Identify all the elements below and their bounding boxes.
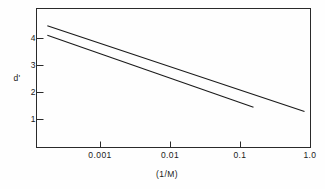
data-series <box>47 26 304 112</box>
x-axis-ticks <box>101 142 311 148</box>
y-tick-label-3: 3 <box>14 60 36 70</box>
series-line-lower <box>47 35 253 107</box>
y-tick-label-1: 1 <box>14 114 36 124</box>
plot-canvas <box>0 0 325 189</box>
y-tick-label-4: 4 <box>14 33 36 43</box>
y-tick-label-2: 2 <box>14 87 36 97</box>
axis-frame <box>37 9 311 148</box>
y-axis-ticks <box>37 39 44 120</box>
x-tick-label-0.01: 0.01 <box>148 150 192 160</box>
series-line-upper <box>47 26 304 112</box>
y-axis-title: d' <box>6 73 28 83</box>
x-tick-label-1.0: 1.0 <box>288 150 325 160</box>
chart-figure: 4 3 2 1 0.001 0.01 0.1 1.0 d' (1/M) <box>0 0 325 189</box>
x-tick-label-0.1: 0.1 <box>218 150 262 160</box>
x-tick-label-0.001: 0.001 <box>78 150 122 160</box>
x-axis-title: (1/M) <box>145 169 189 179</box>
